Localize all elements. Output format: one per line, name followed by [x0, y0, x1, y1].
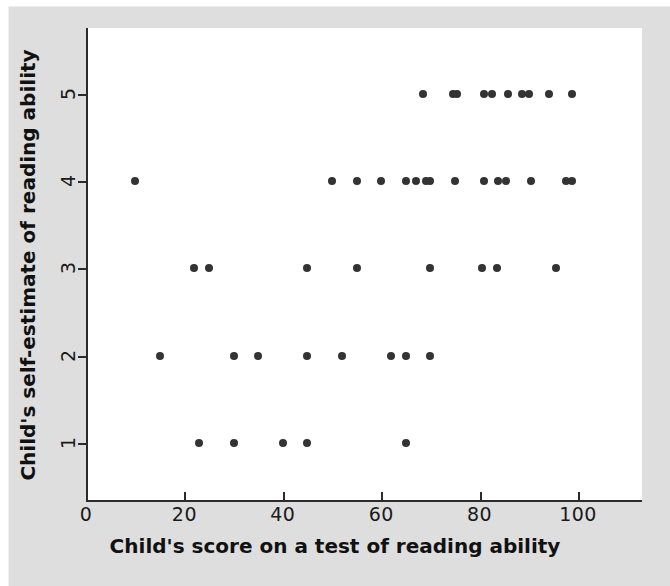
data-point	[545, 90, 553, 98]
data-point	[502, 177, 510, 185]
data-point	[156, 352, 164, 360]
data-point	[527, 177, 535, 185]
data-point	[419, 90, 427, 98]
data-point	[480, 177, 488, 185]
data-point	[230, 439, 238, 447]
x-tick	[381, 492, 383, 500]
y-axis-title-container: Child's self-estimate of reading ability	[0, 0, 56, 530]
x-tick-label: 20	[172, 503, 197, 525]
x-tick-label: 40	[270, 503, 295, 525]
x-tick-label: 100	[559, 503, 597, 525]
data-point	[451, 177, 459, 185]
y-tick	[78, 356, 86, 358]
data-point	[504, 90, 512, 98]
x-tick-label: 0	[80, 503, 93, 525]
data-point	[402, 352, 410, 360]
y-axis-title: Child's self-estimate of reading ability	[16, 49, 40, 480]
y-axis-line	[86, 28, 88, 502]
y-tick-label: 5	[57, 84, 79, 104]
x-tick	[578, 492, 580, 500]
data-point	[353, 177, 361, 185]
data-point	[568, 177, 576, 185]
data-point	[338, 352, 346, 360]
data-point	[254, 352, 262, 360]
x-tick	[184, 492, 186, 500]
x-tick	[283, 492, 285, 500]
y-tick-label: 1	[57, 433, 79, 453]
data-point	[230, 352, 238, 360]
y-tick-label: 4	[57, 171, 79, 191]
x-axis-line	[86, 500, 642, 502]
data-point	[328, 177, 336, 185]
data-point	[353, 264, 361, 272]
data-point	[279, 439, 287, 447]
y-tick	[78, 443, 86, 445]
data-point	[402, 439, 410, 447]
data-point	[525, 90, 533, 98]
y-tick-label: 3	[57, 258, 79, 278]
y-tick-label: 2	[57, 346, 79, 366]
x-tick-label: 80	[467, 503, 492, 525]
data-point	[412, 177, 420, 185]
x-tick	[480, 492, 482, 500]
data-point	[387, 352, 395, 360]
y-tick	[78, 181, 86, 183]
data-point	[480, 90, 488, 98]
x-tick	[86, 492, 88, 500]
figure-page: 020406080100 12345 Child's score on a te…	[0, 0, 670, 586]
scatter-plot-figure: 020406080100 12345 Child's score on a te…	[0, 0, 670, 586]
y-tick	[78, 94, 86, 96]
x-axis-title: Child's score on a test of reading abili…	[0, 534, 670, 558]
data-point	[488, 90, 496, 98]
y-tick	[78, 268, 86, 270]
x-tick-label: 60	[369, 503, 394, 525]
data-point	[402, 177, 410, 185]
data-point	[568, 90, 576, 98]
